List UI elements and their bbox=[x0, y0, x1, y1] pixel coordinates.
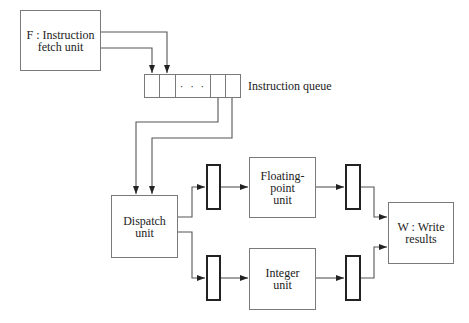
fetch-unit-box: F : Instruction fetch unit bbox=[20, 10, 101, 71]
fetch-unit-label: F : Instruction fetch unit bbox=[27, 29, 95, 53]
dispatch-unit-box: Dispatch unit bbox=[111, 195, 178, 258]
queue-cell bbox=[225, 74, 241, 98]
dispatch-unit-label: Dispatch unit bbox=[123, 215, 166, 239]
register-fp-write bbox=[345, 164, 361, 210]
write-results-box: W : Write results bbox=[388, 202, 454, 264]
ellipsis-label: · · · bbox=[180, 80, 207, 92]
register-dispatch-fp bbox=[206, 164, 221, 210]
register-dispatch-int bbox=[206, 255, 221, 301]
queue-cell bbox=[159, 74, 176, 98]
queue-cell bbox=[144, 74, 160, 98]
integer-unit-box: Integer unit bbox=[249, 248, 316, 310]
register-int-write bbox=[345, 255, 361, 301]
floating-point-unit-box: Floating- point unit bbox=[249, 157, 316, 218]
queue-cell-ellipsis: · · · bbox=[175, 74, 211, 98]
instruction-queue-label: Instruction queue bbox=[248, 79, 332, 94]
integer-unit-label: Integer unit bbox=[266, 267, 300, 291]
queue-cell bbox=[210, 74, 226, 98]
write-results-label: W : Write results bbox=[397, 221, 444, 245]
floating-point-unit-label: Floating- point unit bbox=[261, 170, 305, 206]
